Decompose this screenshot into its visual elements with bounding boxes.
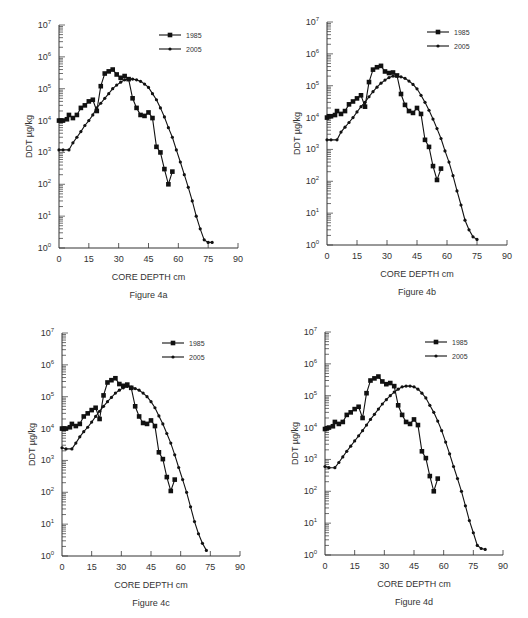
y-tick-label: 101 (304, 517, 318, 528)
data-point (87, 119, 90, 122)
data-point (367, 80, 372, 85)
data-point (403, 103, 408, 108)
data-point (359, 93, 364, 98)
data-point (484, 548, 487, 551)
data-point (427, 145, 432, 150)
data-point (404, 420, 409, 425)
data-point (335, 109, 340, 114)
y-tick-label: 107 (38, 19, 52, 30)
data-point (117, 382, 122, 387)
data-point (142, 114, 147, 119)
data-point (419, 94, 422, 97)
x-tick-label: 45 (143, 254, 153, 264)
x-tick-label: 60 (176, 562, 186, 572)
data-point (368, 378, 373, 383)
x-tick-label: 15 (352, 251, 362, 261)
data-point (94, 415, 97, 418)
data-point (109, 378, 114, 383)
data-point (327, 425, 332, 430)
data-point (115, 83, 118, 86)
data-point (415, 106, 420, 111)
data-point (333, 466, 336, 469)
legend-label-1985: 1985 (452, 339, 468, 346)
x-tick-label: 75 (205, 562, 215, 572)
y-axis-title: DDT µg/kg (27, 423, 37, 466)
y-tick-label: 103 (304, 453, 318, 464)
y-tick-label: 102 (38, 178, 52, 189)
data-point (154, 145, 159, 150)
data-point (199, 227, 202, 230)
data-point (143, 82, 146, 85)
data-point (61, 148, 64, 151)
data-point (86, 426, 89, 429)
data-point (93, 405, 98, 410)
x-tick-label: 30 (382, 251, 392, 261)
y-tick-label: 101 (41, 518, 55, 529)
y-tick-label: 107 (304, 326, 318, 337)
data-point (110, 67, 115, 72)
data-point (134, 387, 137, 390)
x-tick-label: 60 (442, 251, 452, 261)
data-point (443, 149, 446, 152)
data-point (347, 102, 352, 107)
data-point (64, 447, 67, 450)
data-point (110, 396, 113, 399)
data-point (396, 403, 401, 408)
data-point (211, 241, 214, 244)
data-point (341, 455, 344, 458)
data-point (114, 391, 117, 394)
data-point (379, 82, 382, 85)
data-point (153, 406, 156, 409)
legend-marker (434, 354, 437, 357)
data-point (333, 420, 338, 425)
data-point (323, 465, 326, 468)
data-point (102, 405, 105, 408)
data-point (380, 379, 385, 384)
data-point (343, 126, 346, 129)
data-point (451, 174, 454, 177)
x-tick-label: 75 (203, 254, 213, 264)
legend-marker (434, 340, 439, 345)
data-point (165, 475, 170, 480)
data-point (78, 435, 81, 438)
chart-figure-4d: 1001011021031041051061070153045607590COR… (290, 326, 508, 607)
data-point (436, 419, 439, 422)
data-point (435, 127, 438, 130)
data-point (389, 394, 392, 397)
data-point (175, 148, 178, 151)
data-point (127, 78, 130, 81)
y-tick-label: 104 (38, 115, 52, 126)
data-point (98, 84, 103, 89)
data-point (193, 520, 196, 523)
y-tick-label: 107 (306, 16, 320, 27)
y-tick-label: 106 (304, 358, 318, 369)
data-point (455, 189, 458, 192)
data-point (113, 376, 118, 381)
data-point (170, 169, 175, 174)
data-point (329, 138, 332, 141)
x-tick-label: 30 (379, 561, 389, 571)
data-point (401, 385, 404, 388)
data-point (464, 504, 467, 507)
data-point (393, 390, 396, 393)
data-point (351, 116, 354, 119)
data-point (137, 414, 142, 419)
data-point (400, 413, 405, 418)
y-tick-label: 100 (38, 242, 52, 253)
data-point (95, 106, 98, 109)
x-tick-label: 45 (412, 251, 422, 261)
data-point (384, 382, 389, 387)
data-point (395, 75, 398, 78)
data-point (439, 166, 444, 171)
x-axis-title: CORE DEPTH cm (114, 580, 188, 590)
data-point (159, 106, 162, 109)
data-point (157, 450, 162, 455)
data-point (177, 466, 180, 469)
data-point (83, 124, 86, 127)
data-point (172, 477, 177, 482)
data-point (365, 423, 368, 426)
data-point (87, 99, 92, 104)
x-tick-label: 60 (173, 254, 183, 264)
data-point (103, 97, 106, 100)
data-point (423, 138, 428, 143)
